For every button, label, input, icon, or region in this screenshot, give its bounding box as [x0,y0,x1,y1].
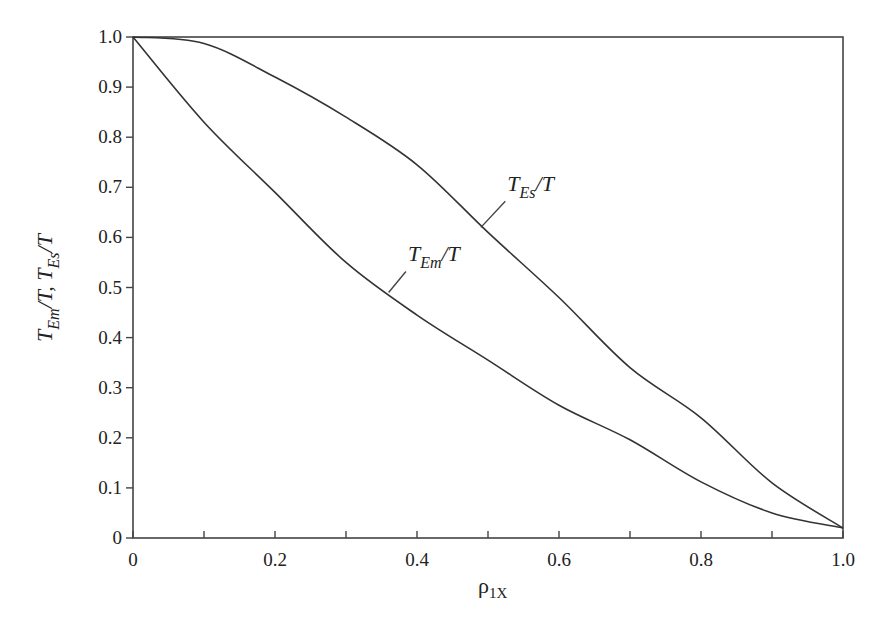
curve-em [133,37,843,528]
y-tick-label: 0.5 [98,277,122,298]
y-tick-label: 0 [113,527,123,548]
y-tick-label: 0.1 [98,477,122,498]
curve-label-em: TEm/T [408,241,462,271]
curves [133,37,843,528]
curve-labels: TEs/TTEm/T [389,171,556,292]
y-tick-label: 0.3 [98,377,122,398]
y-axis-label: TEm/T, TEs/T [32,232,62,342]
y-axis-ticks: 00.10.20.30.40.50.60.70.80.91.0 [98,26,133,548]
y-tick-label: 0.6 [98,226,122,247]
label-leader-line [481,201,505,227]
y-tick-label: 0.8 [98,126,122,147]
x-tick-label: 0.8 [689,549,713,570]
x-tick-label: 1.0 [831,549,855,570]
plot-frame [133,37,843,538]
label-leader-line [389,271,406,292]
curve-es [133,37,843,528]
y-axis-label-text: TEm/T, TEs/T [32,232,62,342]
x-axis-label-sub: 1X [489,585,508,601]
x-tick-label: 0.4 [405,549,429,570]
chart: 00.10.20.30.40.50.60.70.80.91.0 00.20.40… [0,0,880,632]
y-tick-label: 0.9 [98,76,122,97]
y-tick-label: 1.0 [98,26,122,47]
x-tick-label: 0 [128,549,138,570]
x-tick-label: 0.6 [547,549,571,570]
x-tick-label: 0.2 [263,549,287,570]
curve-label-es: TEs/T [507,171,555,201]
x-axis-label-main: ρ [478,573,489,598]
y-tick-label: 0.2 [98,427,122,448]
y-tick-label: 0.4 [98,327,122,348]
y-tick-label: 0.7 [98,176,122,197]
x-axis-ticks: 00.20.40.60.81.0 [128,531,855,570]
x-axis-label: ρ1X [478,573,507,601]
